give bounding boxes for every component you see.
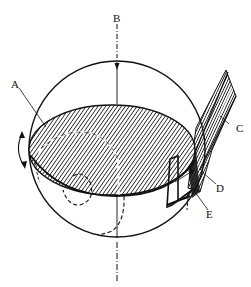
label-a: A <box>11 78 19 90</box>
label-b: B <box>113 12 120 24</box>
label-c: C <box>236 122 243 134</box>
sphere-diagram: A B C D E <box>0 0 251 287</box>
axis-arrow-icon <box>115 63 120 70</box>
rotation-arrow-icon <box>18 131 27 169</box>
fiber-bundle <box>186 70 236 198</box>
label-d: D <box>216 182 224 194</box>
hatched-plane <box>29 105 195 195</box>
label-e: E <box>206 208 213 220</box>
